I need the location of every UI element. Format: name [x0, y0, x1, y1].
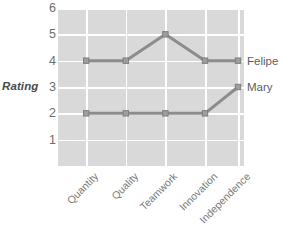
x-axis-tick-labels: QuantityQualityTeamworkInnovationIndepen…: [0, 0, 283, 230]
line-chart: Rating 654321 FelipeMary QuantityQuality…: [0, 0, 283, 230]
